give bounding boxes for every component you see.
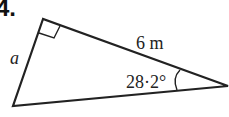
angle-label: 28·2° [126, 72, 166, 92]
triangle [13, 19, 228, 106]
hypotenuse-label: 6 m [136, 33, 164, 53]
right-angle-marker [39, 26, 60, 38]
angle-arc [175, 70, 180, 90]
triangle-diagram: a 6 m 28·2° [0, 0, 229, 117]
side-label-a: a [10, 48, 19, 68]
